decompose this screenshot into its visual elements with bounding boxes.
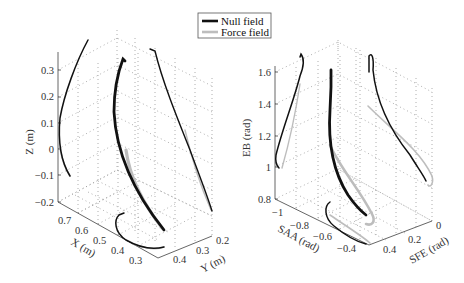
left-z-tick: −0.2 bbox=[35, 197, 54, 208]
left-x-axis bbox=[58, 202, 158, 258]
right-z-label: EB (rad) bbox=[240, 119, 253, 158]
right-z-tick: 1 bbox=[266, 162, 271, 173]
right-x-tick: −0.4 bbox=[337, 243, 357, 254]
left-z-tick: −0.1 bbox=[35, 170, 54, 181]
right-x-tick: −1 bbox=[272, 207, 283, 218]
left-y-tick: 0.3 bbox=[196, 245, 209, 256]
left-z-label: Z (m) bbox=[23, 129, 36, 155]
right-y-tick: 0 bbox=[436, 220, 441, 231]
right-series-null bbox=[276, 54, 426, 244]
left-y-tick: 0.2 bbox=[216, 235, 229, 246]
left-x-tick: 0.6 bbox=[75, 225, 88, 236]
legend: Null field Force field bbox=[198, 13, 271, 38]
right-grid bbox=[275, 40, 432, 240]
right-z-tick: 0.8 bbox=[258, 194, 271, 205]
left-x-tick: 0.3 bbox=[129, 255, 142, 266]
left-z-tick: 0.2 bbox=[41, 91, 54, 102]
left-x-tick: 0.5 bbox=[93, 235, 106, 246]
right-z-tick: 1.2 bbox=[258, 131, 271, 142]
left-plot: 0.3 0.2 0.1 0 −0.1 −0.2 Z (m) 0.7 0.6 0.… bbox=[23, 30, 229, 276]
left-y-tick: 0.4 bbox=[173, 254, 187, 265]
left-x-tick: 0.7 bbox=[58, 215, 71, 226]
left-z-tick: 0 bbox=[49, 144, 54, 155]
right-y-axis bbox=[369, 221, 432, 245]
left-z-tick: 0.3 bbox=[41, 65, 54, 76]
left-x-tick: 0.4 bbox=[111, 245, 125, 256]
right-y-tick: 0.2 bbox=[408, 234, 421, 245]
right-y-tick: 0.4 bbox=[383, 244, 397, 255]
left-z-tick: 0.1 bbox=[41, 118, 54, 129]
left-grid bbox=[58, 30, 212, 250]
right-plot: 1.6 1.4 1.2 1 0.8 EB (rad) −1 −0.8 −0.6 … bbox=[240, 40, 451, 267]
legend-label-force: Force field bbox=[221, 26, 269, 38]
right-z-tick: 1.4 bbox=[258, 99, 272, 110]
figure: Null field Force field 0.3 0.2 0.1 0 −0.… bbox=[0, 0, 464, 283]
right-z-tick: 1.6 bbox=[258, 67, 271, 78]
